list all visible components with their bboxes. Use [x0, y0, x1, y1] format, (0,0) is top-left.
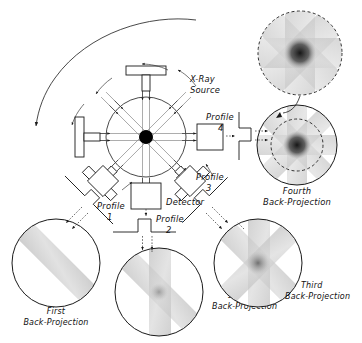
profile-2-label-line2: 2: [166, 225, 172, 235]
profile-4-label-line2: 4: [218, 123, 224, 133]
backprojection-third-label-line2: Back-Projection: [285, 292, 350, 301]
xray-source-label-line1: X-Ray: [189, 74, 216, 84]
profile-1-label-line2: 1: [107, 212, 113, 222]
backprojection-third: Third Back-Projection: [214, 219, 350, 307]
profile-2-label-line1: Profile: [156, 214, 184, 224]
profile-1-label-line1: Profile: [97, 201, 125, 211]
scanner-assembly: X-Ray Source Detector: [72, 64, 223, 209]
figure-canvas: First Back-Projection Second Back-Projec…: [0, 0, 362, 343]
scan-object: [139, 130, 153, 144]
ct-backprojection-figure: First Back-Projection Second Back-Projec…: [0, 0, 362, 343]
xray-source-label: X-Ray Source: [189, 74, 220, 95]
backprojection-fourth-magnified: [258, 11, 342, 118]
backprojection-fourth: Fourth Back-Projection: [257, 105, 337, 207]
xray-source-top: [126, 66, 166, 91]
backprojection-fourth-label-line2: Back-Projection: [263, 197, 331, 207]
detector-bottom: [131, 183, 161, 209]
xray-source-label-line2: Source: [190, 85, 220, 95]
profile-4-label-line1: Profile: [206, 112, 234, 122]
profile-3-label-line2: 3: [206, 183, 212, 193]
backprojection-third-label-line1: Third: [301, 281, 323, 290]
backprojection-first-label-line1: First: [47, 307, 66, 316]
xray-source-left: [75, 117, 100, 157]
backprojection-first: First Back-Projection: [12, 219, 100, 327]
backprojection-first-label-line2: Back-Projection: [23, 318, 88, 327]
profile-2: Profile 2: [113, 209, 184, 250]
profile-3-label-line1: Profile: [196, 172, 224, 182]
backprojection-fourth-label-line1: Fourth: [283, 186, 311, 196]
rotation-arrow: [36, 19, 196, 126]
